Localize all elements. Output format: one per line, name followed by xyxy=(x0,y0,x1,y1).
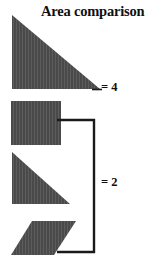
shape-square xyxy=(10,100,62,146)
grouping-bracket xyxy=(57,117,99,255)
label-equals-two: = 2 xyxy=(101,176,118,189)
shape-large-right-triangle xyxy=(10,13,102,91)
figure-canvas: Area comparison xyxy=(0,0,161,280)
label-equals-four: = 4 xyxy=(101,81,118,94)
